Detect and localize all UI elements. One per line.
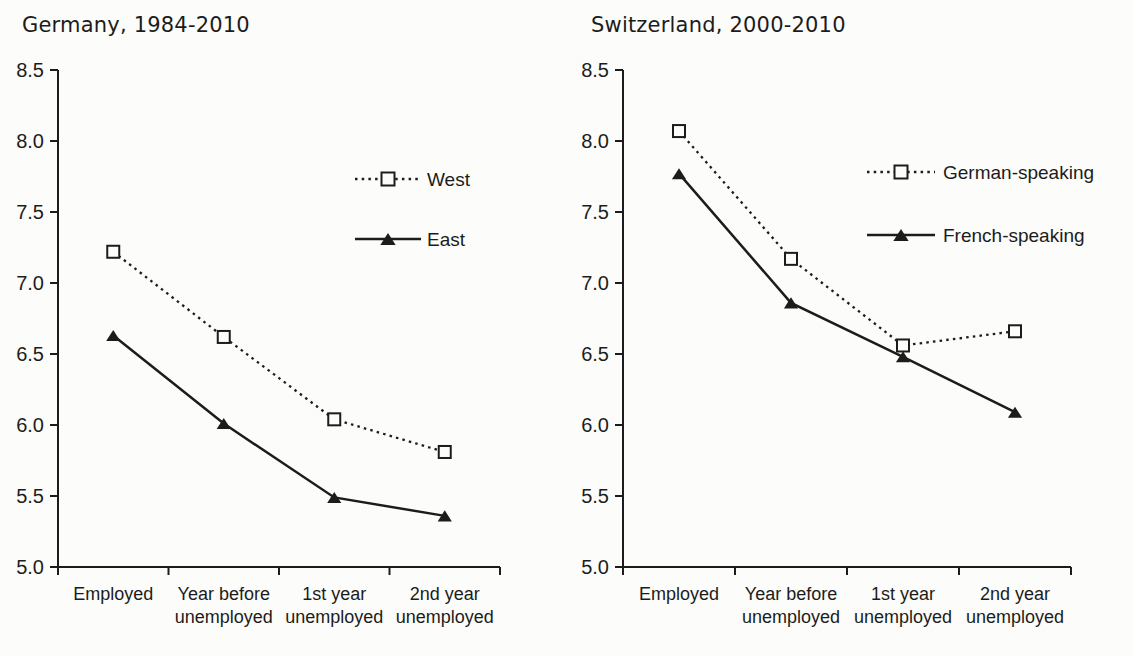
filled-triangle-marker xyxy=(106,330,120,341)
x-category-label: 1st yearunemployed xyxy=(285,584,383,627)
legend-label: West xyxy=(427,169,471,190)
y-tick-label: 5.0 xyxy=(581,556,609,578)
legend: German-speakingFrench-speaking xyxy=(867,162,1094,246)
open-square-marker xyxy=(897,339,909,351)
open-square-marker xyxy=(107,246,119,258)
x-category-label: Year beforeunemployed xyxy=(742,584,840,627)
x-category-label: Employed xyxy=(639,584,719,604)
legend-label: German-speaking xyxy=(943,162,1094,183)
y-tick-label: 6.0 xyxy=(581,414,609,436)
x-category-label: 2nd yearunemployed xyxy=(966,584,1064,627)
axes xyxy=(623,70,1071,567)
series-west xyxy=(107,246,451,458)
x-axis-ticks: EmployedYear beforeunemployed1st yearune… xyxy=(623,567,1071,627)
y-tick-label: 8.0 xyxy=(581,130,609,152)
y-axis-ticks: 5.05.56.06.57.07.58.08.5 xyxy=(16,59,58,578)
legend-label: East xyxy=(427,229,466,250)
open-square-marker xyxy=(895,166,908,179)
y-tick-label: 7.0 xyxy=(581,272,609,294)
y-tick-label: 5.5 xyxy=(581,485,609,507)
filled-triangle-marker xyxy=(896,351,910,362)
y-axis-ticks: 5.05.56.06.57.07.58.08.5 xyxy=(581,59,623,578)
legend: WestEast xyxy=(355,169,471,250)
open-square-marker xyxy=(785,253,797,265)
x-category-label: 1st yearunemployed xyxy=(854,584,952,627)
x-axis-ticks: EmployedYear beforeunemployed1st yearune… xyxy=(58,567,500,627)
filled-triangle-marker xyxy=(1008,407,1022,418)
y-tick-label: 5.5 xyxy=(16,485,44,507)
y-tick-label: 6.5 xyxy=(581,343,609,365)
legend-label: French-speaking xyxy=(943,225,1085,246)
line-chart-germany: 5.05.56.06.57.07.58.08.5EmployedYear bef… xyxy=(0,0,566,656)
x-category-label: Employed xyxy=(73,584,153,604)
open-square-marker xyxy=(218,331,230,343)
chart-panel-germany: Germany, 1984-2010 5.05.56.06.57.07.58.0… xyxy=(0,0,566,656)
series-east xyxy=(106,330,452,521)
two-panel-line-figure: Germany, 1984-2010 5.05.56.06.57.07.58.0… xyxy=(0,0,1133,656)
filled-triangle-marker xyxy=(672,168,686,179)
open-square-marker xyxy=(439,446,451,458)
y-tick-label: 8.5 xyxy=(581,59,609,81)
y-tick-label: 6.0 xyxy=(16,414,44,436)
y-tick-label: 7.5 xyxy=(581,201,609,223)
x-category-label: 2nd yearunemployed xyxy=(396,584,494,627)
open-square-marker xyxy=(382,173,395,186)
open-square-marker xyxy=(673,125,685,137)
chart-panel-switzerland: Switzerland, 2000-2010 5.05.56.06.57.07.… xyxy=(567,0,1133,656)
series-french-speaking xyxy=(672,168,1022,418)
y-tick-label: 8.0 xyxy=(16,130,44,152)
open-square-marker xyxy=(1009,325,1021,337)
axes xyxy=(58,70,500,567)
y-tick-label: 7.5 xyxy=(16,201,44,223)
y-tick-label: 6.5 xyxy=(16,343,44,365)
line-chart-switzerland: 5.05.56.06.57.07.58.08.5EmployedYear bef… xyxy=(567,0,1133,656)
y-tick-label: 8.5 xyxy=(16,59,44,81)
y-tick-label: 5.0 xyxy=(16,556,44,578)
open-square-marker xyxy=(328,413,340,425)
x-category-label: Year beforeunemployed xyxy=(175,584,273,627)
y-tick-label: 7.0 xyxy=(16,272,44,294)
